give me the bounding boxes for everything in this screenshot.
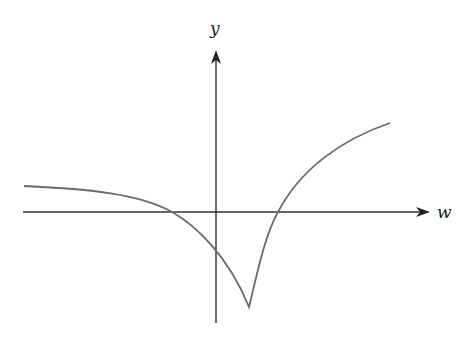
- y-axis-label: y: [209, 18, 220, 38]
- graph: y w: [0, 0, 474, 342]
- w-axis-label: w: [437, 202, 452, 222]
- function-curve: [24, 123, 390, 307]
